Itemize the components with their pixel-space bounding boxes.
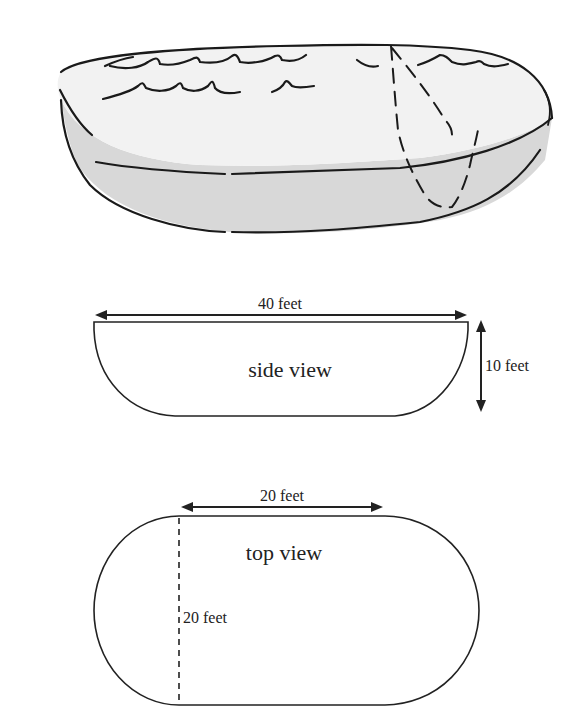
pool-sketch — [58, 45, 552, 233]
arrowhead-right-icon — [455, 310, 467, 320]
top-view — [94, 502, 479, 705]
arrowhead-up-icon — [476, 320, 486, 332]
arrowhead-right-icon — [371, 502, 383, 512]
arrowhead-left-icon — [95, 310, 107, 320]
side-width-label: 40 feet — [258, 295, 303, 312]
top-view-title: top view — [246, 540, 322, 565]
arrowhead-left-icon — [181, 502, 193, 512]
side-view-title: side view — [248, 357, 332, 382]
top-length-label: 20 feet — [260, 487, 305, 504]
arrowhead-down-icon — [476, 400, 486, 412]
top-diameter-label: 20 feet — [183, 609, 228, 626]
side-depth-label: 10 feet — [485, 357, 530, 374]
pool-diagram: 40 feet side view 10 feet 20 feet top vi… — [0, 0, 566, 723]
